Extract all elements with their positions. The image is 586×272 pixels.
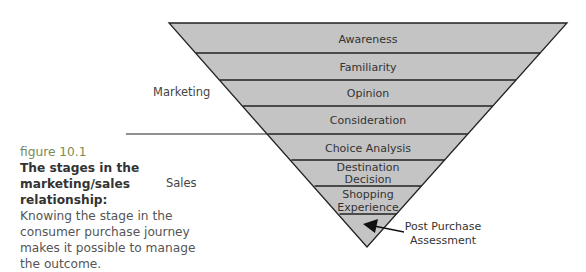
stage-consideration: Consideration	[330, 114, 406, 127]
stage-familiarity: Familiarity	[339, 61, 397, 74]
stage-destination-decision-line2: Decision	[345, 173, 392, 186]
stage-choice-analysis: Choice Analysis	[325, 142, 411, 155]
stage-post-purchase-line2: Assessment	[410, 234, 477, 247]
marketing-label: Marketing	[153, 85, 210, 99]
stage-opinion: Opinion	[347, 87, 389, 100]
figure-caption: figure 10.1 The stages in the marketing/…	[20, 144, 200, 272]
figure-number: figure 10.1	[20, 144, 200, 160]
stage-post-purchase-line1: Post Purchase	[405, 220, 482, 233]
figure-title: The stages in the marketing/sales relati…	[20, 160, 200, 208]
stage-shopping-experience-line1: Shopping	[342, 188, 394, 201]
stage-shopping-experience-line2: Experience	[337, 201, 399, 214]
figure-description: Knowing the stage in the consumer purcha…	[20, 208, 200, 272]
stage-awareness: Awareness	[338, 33, 397, 46]
